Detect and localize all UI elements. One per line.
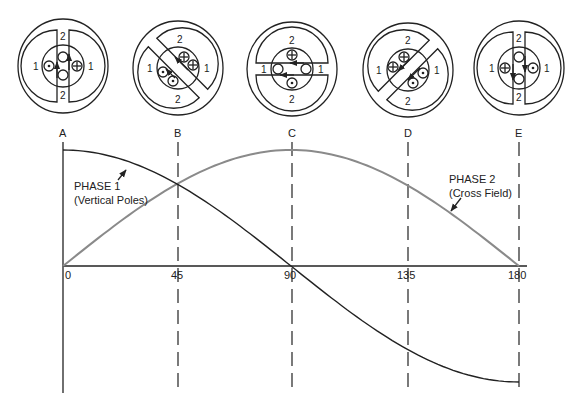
phase2-title: PHASE 2 (449, 173, 495, 185)
x-tick-90: 90 (284, 269, 296, 281)
marker-label-b: B (174, 127, 181, 139)
cross-conductor-icon (188, 60, 198, 70)
phase2-subtitle: (Cross Field) (449, 187, 512, 199)
cross-conductor-icon (388, 62, 398, 72)
cross-conductor-icon (287, 50, 297, 60)
phase2-pointer-arrow-icon (451, 198, 461, 211)
svg-text:1: 1 (204, 63, 210, 74)
svg-text:2: 2 (405, 35, 411, 46)
rotor-diagram-d: 22 11 (353, 15, 463, 125)
svg-text:2: 2 (177, 34, 183, 45)
rotor-diagram-b: 22 11 (123, 13, 233, 123)
svg-text:1: 1 (376, 65, 382, 76)
svg-text:1: 1 (261, 64, 267, 75)
cross-conductor-icon (179, 52, 189, 62)
svg-text:1: 1 (489, 63, 495, 74)
field-arrow-icon (175, 57, 188, 70)
x-tick-0: 0 (65, 269, 71, 281)
marker-label-e: E (515, 127, 522, 139)
rotor-diagram-c: 22 11 (247, 22, 337, 116)
waveform-chart: A B C D E 0 45 90 135 180 PHASE 1 (Verti… (59, 127, 527, 393)
cross-conductor-icon (500, 63, 510, 73)
marker-label-c: C (288, 127, 296, 139)
dot-conductor-icon (528, 63, 538, 73)
svg-text:2: 2 (289, 94, 295, 105)
svg-text:1: 1 (434, 65, 440, 76)
rotor-diagram-a: 22 11 (18, 19, 108, 113)
phase1-title: PHASE 1 (74, 180, 120, 192)
two-phase-motor-figure: 22 11 22 11 22 11 (0, 0, 578, 406)
dot-conductor-icon (158, 67, 168, 77)
x-tick-45: 45 (171, 269, 183, 281)
svg-text:1: 1 (33, 61, 39, 72)
svg-text:2: 2 (516, 33, 522, 44)
dot-conductor-icon (408, 78, 418, 88)
x-tick-135: 135 (397, 269, 415, 281)
dot-conductor-icon (287, 78, 297, 88)
svg-text:2: 2 (516, 92, 522, 103)
marker-label-d: D (404, 127, 412, 139)
rotor-diagram-e: 22 11 (474, 21, 564, 115)
svg-text:2: 2 (60, 31, 66, 42)
phase2-curve (63, 150, 519, 266)
marker-label-a: A (59, 127, 67, 139)
dot-conductor-icon (168, 76, 178, 86)
dot-conductor-icon (44, 61, 54, 71)
dot-conductor-icon (418, 68, 428, 78)
svg-text:1: 1 (88, 61, 94, 72)
svg-text:2: 2 (175, 94, 181, 105)
phase1-subtitle: (Vertical Poles) (74, 194, 148, 206)
svg-text:2: 2 (405, 96, 411, 107)
svg-text:2: 2 (60, 90, 66, 101)
cross-conductor-icon (72, 61, 82, 71)
svg-text:1: 1 (318, 64, 324, 75)
x-tick-180: 180 (508, 269, 526, 281)
phase1-pointer-arrow-icon (118, 170, 126, 180)
svg-text:2: 2 (289, 35, 295, 46)
cross-conductor-icon (399, 52, 409, 62)
svg-text:1: 1 (544, 63, 550, 74)
svg-text:1: 1 (147, 63, 153, 74)
